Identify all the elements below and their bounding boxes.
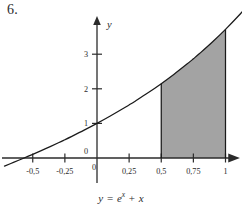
y-axis-tick-labels: 0123	[84, 50, 88, 156]
figure-caption: y = ex + x	[0, 190, 242, 204]
figure-container: 6. -0,5-0,250,250,50,751 0123 0 y y = e	[0, 0, 242, 211]
caption-plus: +	[128, 192, 136, 204]
caption-exponent: x	[122, 190, 125, 199]
x-tick-label: -0,5	[26, 167, 39, 176]
y-axis-arrowhead	[93, 16, 101, 25]
plot-svg: -0,5-0,250,250,50,751 0123 0 y	[0, 0, 242, 211]
caption-term: x	[139, 192, 144, 204]
caption-equals: =	[106, 192, 114, 204]
caption-lhs: y	[98, 192, 103, 204]
x-tick-label: 0,25	[122, 167, 136, 176]
y-axis-name-label: y	[106, 19, 112, 30]
x-axis-tick-labels: -0,5-0,250,250,50,751	[26, 167, 227, 176]
x-tick-label: 1	[223, 167, 227, 176]
y-tick-label: 2	[84, 85, 88, 94]
shaded-area-region	[161, 29, 225, 158]
origin-label: 0	[92, 163, 96, 172]
y-tick-label: 3	[84, 50, 88, 59]
x-tick-label: 0,5	[156, 167, 166, 176]
y-tick-label: 0	[84, 147, 88, 156]
x-tick-label: -0,25	[56, 167, 73, 176]
y-tick-label: 1	[84, 119, 88, 128]
x-tick-label: 0,75	[186, 167, 200, 176]
